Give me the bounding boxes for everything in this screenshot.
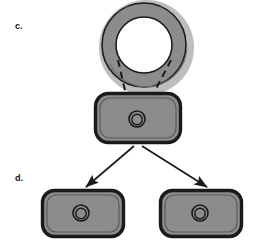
parent-body-outline	[96, 94, 181, 143]
figure-canvas: c. d.	[0, 0, 255, 252]
daughter-rounded-rect-left	[43, 191, 124, 237]
division-arrow-left	[86, 146, 134, 187]
daughter-right-outline	[161, 191, 242, 237]
daughter-left-outline	[43, 191, 124, 237]
parent-rounded-rect	[96, 94, 181, 143]
ring-band	[109, 10, 179, 80]
ring-inner-edge	[116, 17, 172, 73]
schematic-drawing	[0, 0, 255, 252]
daughter-rounded-rect-right	[161, 191, 242, 237]
division-arrow-group	[86, 146, 207, 187]
division-arrow-right	[142, 146, 207, 187]
ring-structure	[99, 0, 194, 95]
